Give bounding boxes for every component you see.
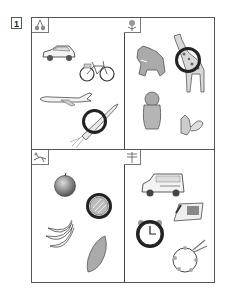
tulip-icon	[124, 18, 141, 33]
sweet-potato-picture[interactable]	[85, 235, 109, 273]
answer-circle	[82, 109, 107, 134]
classification-grid	[31, 17, 215, 283]
telephone-picture[interactable]	[173, 201, 205, 223]
ambulance-picture[interactable]	[140, 172, 186, 198]
grasshopper-icon	[32, 150, 49, 165]
dragonfly-icon	[124, 150, 141, 165]
car-picture[interactable]	[41, 43, 77, 63]
tambourine-picture[interactable]	[169, 236, 209, 276]
cherries-icon	[32, 18, 49, 33]
answer-circle	[136, 220, 164, 248]
squirrel-picture[interactable]	[177, 113, 205, 137]
question-number: 1	[11, 17, 22, 29]
apple-picture[interactable]	[53, 173, 77, 197]
answer-circle	[86, 193, 112, 219]
bicycle-picture[interactable]	[79, 58, 115, 82]
quadrant-2	[124, 18, 216, 149]
bear-picture[interactable]	[135, 44, 167, 78]
bananas-picture[interactable]	[42, 218, 76, 250]
answer-circle	[175, 47, 201, 73]
monkey-picture[interactable]	[140, 91, 164, 131]
quadrant-3	[32, 150, 124, 283]
quadrant-1	[32, 18, 124, 149]
quadrant-4	[124, 150, 216, 283]
